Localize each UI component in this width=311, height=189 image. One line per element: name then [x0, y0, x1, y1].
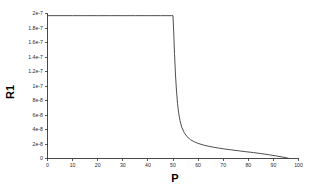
x-tick-label: 30	[120, 162, 126, 168]
x-axis-title: P	[171, 172, 178, 184]
y-tick-label: 6e-8	[33, 112, 43, 118]
x-tick-label: 50	[170, 162, 176, 168]
y-tick-label: 1.6e-7	[28, 39, 43, 45]
y-tick-label: 2e-7	[33, 10, 43, 16]
y-axis-title: R1	[4, 85, 16, 99]
x-tick-label: 80	[245, 162, 251, 168]
y-tick-label: 8e-8	[33, 97, 43, 103]
x-tick-label: 90	[271, 162, 277, 168]
x-tick-label: 100	[294, 162, 303, 168]
y-tick-label: 1.8e-7	[28, 25, 43, 31]
y-tick-label: 1.4e-7	[28, 54, 43, 60]
x-tick-label: 0	[46, 162, 49, 168]
y-tick-label: 2e-8	[33, 141, 43, 147]
y-tick-label: 4e-8	[33, 126, 43, 132]
x-tick-label: 40	[145, 162, 151, 168]
y-tick-label: 0	[40, 155, 43, 161]
chart-figure: 02e-84e-86e-88e-81e-71.2e-71.4e-71.6e-71…	[0, 0, 311, 189]
x-tick-label: 10	[70, 162, 76, 168]
x-tick-label: 20	[95, 162, 101, 168]
x-tick-label: 60	[195, 162, 201, 168]
y-tick-label: 1e-7	[33, 83, 43, 89]
line-chart: 02e-84e-86e-88e-81e-71.2e-71.4e-71.6e-71…	[0, 0, 311, 189]
y-tick-label: 1.2e-7	[28, 68, 43, 74]
x-tick-label: 70	[220, 162, 226, 168]
